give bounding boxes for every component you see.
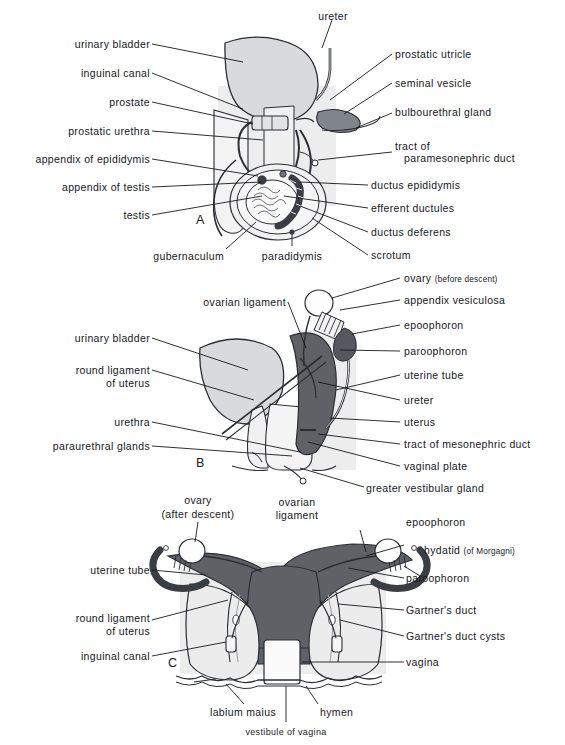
label-round-ligament-c: round ligament bbox=[76, 612, 150, 624]
panel-a-artwork bbox=[214, 37, 380, 240]
label-vagina: vagina bbox=[406, 656, 439, 668]
label-gubernaculum: gubernaculum bbox=[153, 250, 224, 262]
label-uterine-tube-c: uterine tube bbox=[90, 564, 150, 576]
label-ductus-epididymis: ductus epididymis bbox=[371, 179, 460, 191]
panel-letter-a: A bbox=[196, 213, 204, 227]
label-appendix-of-testis: appendix of testis bbox=[62, 181, 150, 193]
label-paramesonephric-duct: paramesonephric duct bbox=[404, 152, 515, 164]
label-inguinal-canal-c: inguinal canal bbox=[81, 650, 150, 662]
label-paroophoron-b: paroophoron bbox=[404, 345, 467, 357]
label-greater-vestibular-gland: greater vestibular gland bbox=[366, 482, 484, 494]
panel-letter-b: B bbox=[196, 456, 204, 470]
label-uterus-b: uterus bbox=[404, 416, 435, 428]
label-ovary-before-descent-text: ovary bbox=[404, 272, 431, 284]
label-appendix-of-epididymis: appendix of epididymis bbox=[35, 153, 150, 165]
label-hydatid: hydatid (of Morgagni) bbox=[424, 544, 515, 558]
label-urinary-bladder-b: urinary bladder bbox=[75, 332, 150, 344]
label-seminal-vesicle: seminal vesicle bbox=[395, 77, 471, 89]
label-urinary-bladder-a: urinary bladder bbox=[75, 38, 150, 50]
anatomical-figure: urinary bladder inguinal canal prostate … bbox=[0, 0, 565, 745]
label-urethra: urethra bbox=[114, 416, 150, 428]
label-gartners-duct: Gartner's duct bbox=[406, 604, 477, 616]
label-uterine-tube-b: uterine tube bbox=[404, 369, 464, 381]
label-appendix-vesiculosa: appendix vesiculosa bbox=[404, 294, 505, 306]
panel-c-artwork bbox=[153, 539, 427, 689]
label-bulbourethral-gland: bulbourethral gland bbox=[395, 106, 492, 118]
label-round-ligament-b: round ligament bbox=[76, 364, 150, 376]
label-inguinal-canal-a: inguinal canal bbox=[81, 67, 150, 79]
label-efferent-ductules: efferent ductules bbox=[371, 202, 454, 214]
label-hydatid-text: hydatid bbox=[424, 544, 460, 556]
label-ovary-before-descent-note: (before descent) bbox=[435, 275, 498, 284]
label-ovarian-ligament-c: ovarian bbox=[279, 496, 316, 508]
label-vaginal-plate: vaginal plate bbox=[404, 460, 468, 472]
label-round-ligament-c-line2: of uterus bbox=[106, 625, 150, 637]
label-scrotum: scrotum bbox=[371, 249, 411, 261]
label-paraurethral-glands: paraurethral glands bbox=[53, 440, 150, 452]
label-vestibule-of-vagina: vestibule of vagina bbox=[245, 726, 326, 738]
label-prostate: prostate bbox=[109, 96, 150, 108]
label-hymen: hymen bbox=[320, 706, 353, 718]
label-ovarian-ligament-b: ovarian ligament bbox=[203, 296, 286, 308]
label-ovarian-ligament-c-line2: ligament bbox=[276, 509, 319, 521]
label-paradidymis: paradidymis bbox=[262, 250, 322, 262]
label-ovary-after-descent: ovary bbox=[184, 494, 211, 506]
label-gartners-duct-cysts: Gartner's duct cysts bbox=[406, 630, 505, 642]
label-tract-of-mesonephric-duct: tract of mesonephric duct bbox=[404, 438, 531, 450]
label-tract-of: tract of bbox=[395, 140, 430, 152]
label-prostatic-utricle: prostatic utricle bbox=[395, 48, 472, 60]
label-ovary-before-descent: ovary (before descent) bbox=[404, 272, 498, 286]
label-ureter-a: ureter bbox=[318, 10, 348, 22]
label-labium-maius: labium maius bbox=[210, 706, 276, 718]
label-epoophoron-c: epoophoron bbox=[406, 516, 466, 528]
label-prostatic-urethra: prostatic urethra bbox=[68, 125, 150, 137]
label-round-ligament-b-line2: of uterus bbox=[106, 377, 150, 389]
label-epoophoron-b: epoophoron bbox=[404, 319, 464, 331]
label-ductus-deferens: ductus deferens bbox=[371, 226, 451, 238]
label-paroophoron-c: paroophoron bbox=[406, 572, 469, 584]
label-ovary-after-descent-note: (after descent) bbox=[162, 508, 235, 520]
label-testis: testis bbox=[123, 209, 150, 221]
label-hydatid-note: (of Morgagni) bbox=[464, 547, 515, 556]
panel-letter-c: C bbox=[168, 656, 177, 670]
label-ureter-b: ureter bbox=[404, 394, 434, 406]
